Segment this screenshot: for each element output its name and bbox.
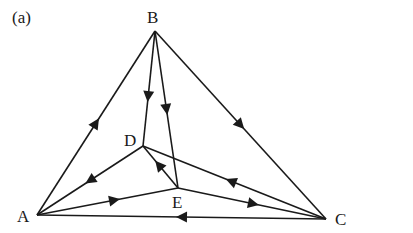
graph-edges: [0, 0, 413, 233]
arrowhead-icon: [143, 91, 154, 103]
directed-graph-figure: (a) B D E A C: [0, 0, 413, 233]
arrowhead-icon: [247, 197, 259, 208]
arrowhead-icon: [155, 161, 166, 173]
arrowhead-icon: [85, 173, 97, 184]
arrowhead-icon: [160, 103, 171, 115]
arrowhead-icon: [88, 118, 99, 130]
arrowhead-icon: [108, 196, 120, 207]
arrowhead-icon: [176, 212, 187, 223]
